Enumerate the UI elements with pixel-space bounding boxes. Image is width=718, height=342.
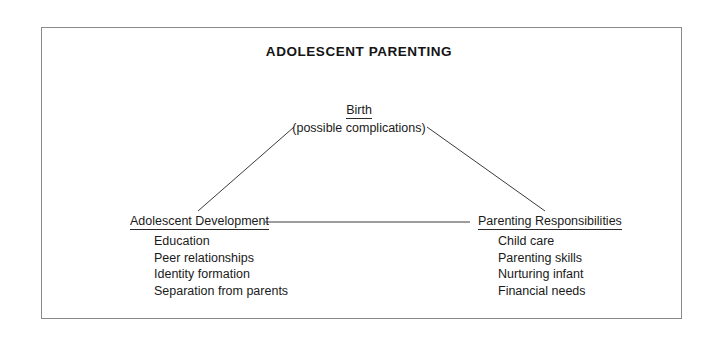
list-item: Nurturing infant — [498, 266, 622, 283]
node-birth-heading-wrap: Birth — [0, 100, 718, 119]
node-adolescent-development-heading-wrap: Adolescent Development — [130, 211, 288, 230]
node-parenting-responsibilities-items: Child care Parenting skills Nurturing in… — [478, 233, 622, 299]
node-birth-label: Birth — [346, 103, 372, 119]
list-item: Identity formation — [154, 266, 288, 283]
list-item: Education — [154, 233, 288, 250]
diagram-title: ADOLESCENT PARENTING — [0, 44, 718, 59]
node-parenting-responsibilities: Parenting Responsibilities Child care Pa… — [478, 211, 622, 299]
node-birth: Birth (possible complications) — [0, 100, 718, 136]
node-birth-sublabel: (possible complications) — [0, 120, 718, 136]
node-adolescent-development-items: Education Peer relationships Identity fo… — [130, 233, 288, 299]
node-parenting-responsibilities-heading-wrap: Parenting Responsibilities — [478, 211, 622, 230]
node-adolescent-development: Adolescent Development Education Peer re… — [130, 211, 288, 299]
list-item: Separation from parents — [154, 283, 288, 300]
list-item: Peer relationships — [154, 250, 288, 267]
node-parenting-responsibilities-label: Parenting Responsibilities — [478, 214, 622, 230]
list-item: Child care — [498, 233, 622, 250]
list-item: Parenting skills — [498, 250, 622, 267]
list-item: Financial needs — [498, 283, 622, 300]
node-adolescent-development-label: Adolescent Development — [130, 214, 269, 230]
